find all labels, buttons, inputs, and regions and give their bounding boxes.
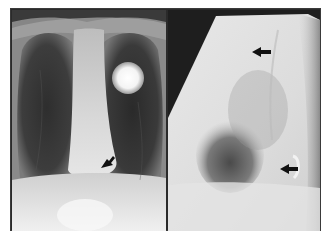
panel-frontal-xray: [12, 10, 166, 231]
lateral-xray-image: [168, 10, 320, 231]
panel-lateral-xray: [168, 10, 320, 231]
frontal-xray-image: [12, 10, 166, 231]
figure-frame: [10, 8, 321, 231]
